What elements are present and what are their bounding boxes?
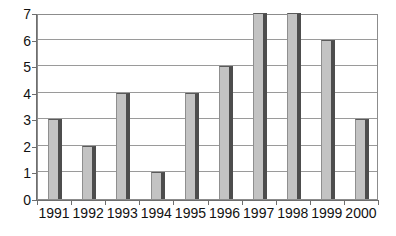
x-tick-label: 1997	[242, 206, 276, 220]
x-tick-mark	[139, 200, 140, 205]
x-tick-mark	[173, 200, 174, 205]
bar	[48, 119, 62, 199]
y-tick-mark	[32, 14, 37, 15]
bar	[321, 40, 335, 199]
x-tick-label: 1991	[37, 206, 71, 220]
y-tick-label: 4	[16, 87, 31, 101]
y-tick-label: 2	[16, 140, 31, 154]
bar	[287, 13, 301, 199]
y-tick-label: 0	[16, 193, 31, 207]
plot-area	[37, 14, 378, 200]
x-tick-mark	[105, 200, 106, 205]
y-tick-mark	[32, 147, 37, 148]
x-tick-label: 1992	[71, 206, 105, 220]
y-tick-label: 5	[16, 60, 31, 74]
bar	[355, 119, 369, 199]
bar	[82, 146, 96, 199]
bars-layer	[38, 15, 377, 199]
x-tick-label: 1995	[173, 206, 207, 220]
x-tick-mark	[242, 200, 243, 205]
x-tick-label: 2000	[344, 206, 378, 220]
y-tick-label: 1	[16, 166, 31, 180]
x-tick-mark	[344, 200, 345, 205]
bar	[253, 13, 267, 199]
x-tick-mark	[276, 200, 277, 205]
y-tick-label: 3	[16, 113, 31, 127]
bar	[116, 93, 130, 199]
x-tick-mark	[378, 200, 379, 205]
bar	[185, 93, 199, 199]
y-tick-mark	[32, 41, 37, 42]
y-tick-mark	[32, 67, 37, 68]
x-tick-mark	[310, 200, 311, 205]
y-tick-mark	[32, 94, 37, 95]
bar	[219, 66, 233, 199]
y-tick-mark	[32, 120, 37, 121]
y-axis-labels: 01234567	[16, 0, 31, 236]
x-tick-label: 1993	[105, 206, 139, 220]
y-tick-mark	[32, 173, 37, 174]
x-tick-mark	[71, 200, 72, 205]
x-tick-mark	[208, 200, 209, 205]
x-tick-label: 1996	[208, 206, 242, 220]
y-tick-label: 7	[16, 7, 31, 21]
x-tick-label: 1994	[139, 206, 173, 220]
bar-chart: 01234567 1991199219931994199519961997199…	[0, 0, 396, 236]
x-tick-label: 1999	[310, 206, 344, 220]
x-tick-label: 1998	[276, 206, 310, 220]
y-tick-label: 6	[16, 34, 31, 48]
x-tick-mark	[37, 200, 38, 205]
bar	[151, 172, 165, 199]
